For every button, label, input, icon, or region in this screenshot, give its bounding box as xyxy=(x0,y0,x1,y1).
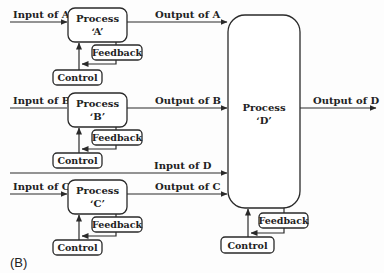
output-d-label: Output of D xyxy=(313,95,379,106)
process-c-name: ‘C’ xyxy=(90,198,105,209)
process-a-name: ‘A’ xyxy=(91,26,103,37)
feedback-b-label: Feedback xyxy=(92,132,143,143)
feedback-d-label: Feedback xyxy=(258,215,309,226)
process-d-name: ‘D’ xyxy=(256,115,272,126)
input-a-label: Input of A xyxy=(13,9,70,20)
process-d-group: Process ‘D’ Output of D Feedback Control xyxy=(221,15,379,253)
output-a-label: Output of A xyxy=(155,9,220,20)
input-b-label: Input of B xyxy=(13,95,70,106)
process-b-name: ‘B’ xyxy=(90,111,105,122)
process-flow-diagram: Input of A Process ‘A’ Output of A Feedb… xyxy=(0,0,384,273)
process-c-group: Input of C Process ‘C’ Output of C Feedb… xyxy=(10,180,227,255)
figure-caption: (B) xyxy=(10,255,27,270)
process-b-group: Input of B Process ‘B’ Output of B Feedb… xyxy=(10,93,227,168)
input-c-label: Input of C xyxy=(13,181,70,192)
control-d-label: Control xyxy=(227,240,268,251)
feedback-c-label: Feedback xyxy=(92,219,143,230)
input-d-label: Input of D xyxy=(154,160,212,171)
control-b-label: Control xyxy=(57,155,98,166)
process-c-title: Process xyxy=(76,185,120,196)
output-b-label: Output of B xyxy=(155,95,221,106)
process-a-group: Input of A Process ‘A’ Output of A Feedb… xyxy=(10,8,227,85)
control-c-label: Control xyxy=(57,242,98,253)
process-b-title: Process xyxy=(76,98,120,109)
control-a-label: Control xyxy=(57,72,98,83)
output-c-label: Output of C xyxy=(155,181,220,192)
process-a-title: Process xyxy=(76,13,120,24)
input-d-group: Input of D xyxy=(10,160,227,173)
process-d-title: Process xyxy=(242,102,286,113)
feedback-a-label: Feedback xyxy=(92,47,143,58)
